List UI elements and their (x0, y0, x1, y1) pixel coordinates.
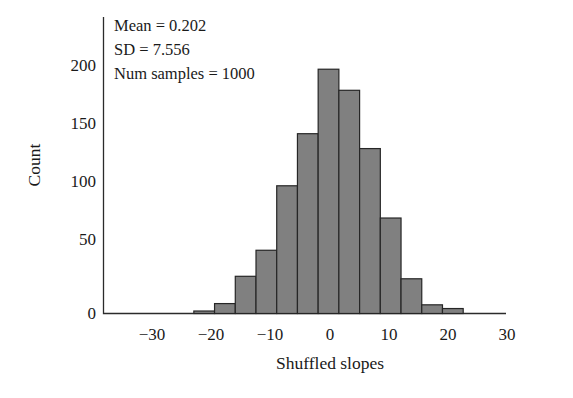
y-tick-label-200: 200 (71, 56, 97, 75)
histogram-bar (215, 304, 236, 314)
x-tick-label-neg10: −10 (257, 325, 284, 344)
histogram-bar (256, 250, 277, 313)
histogram-bars (194, 69, 463, 313)
annotation-mean: Mean = 0.202 (114, 16, 206, 35)
x-tick-label-0: 0 (326, 325, 335, 344)
y-tick-label-100: 100 (71, 172, 97, 191)
histogram-bar (360, 149, 381, 314)
x-tick-label-neg30: −30 (139, 325, 166, 344)
histogram-bar (235, 276, 256, 313)
y-tick-label-150: 150 (71, 114, 97, 133)
histogram-figure: 200 150 100 50 0 Count −30 −20 −10 0 10 … (0, 0, 573, 398)
x-tick-label-10: 10 (381, 325, 398, 344)
histogram-bar (380, 218, 401, 313)
x-axis-title: Shuffled slopes (276, 353, 384, 373)
annotation-num-samples: Num samples = 1000 (114, 64, 255, 83)
x-tick-label-20: 20 (440, 325, 457, 344)
x-tick-label-neg20: −20 (198, 325, 225, 344)
annotation-sd: SD = 7.556 (114, 40, 190, 59)
x-tick-label-30: 30 (499, 325, 516, 344)
histogram-plot-area: 200 150 100 50 0 Count −30 −20 −10 0 10 … (0, 0, 573, 398)
histogram-bar (401, 279, 422, 314)
histogram-bar (297, 134, 318, 314)
y-axis-title: Count (24, 143, 44, 186)
y-tick-label-50: 50 (79, 230, 96, 249)
histogram-bar (339, 90, 360, 313)
histogram-bar (194, 311, 215, 313)
histogram-bar (422, 305, 443, 314)
histogram-bar (277, 186, 298, 314)
histogram-bar (318, 69, 339, 313)
y-tick-label-0: 0 (88, 304, 97, 323)
histogram-bar (442, 309, 463, 314)
